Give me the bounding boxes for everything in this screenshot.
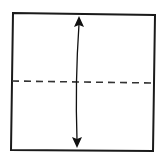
origami-diagram xyxy=(0,0,165,164)
